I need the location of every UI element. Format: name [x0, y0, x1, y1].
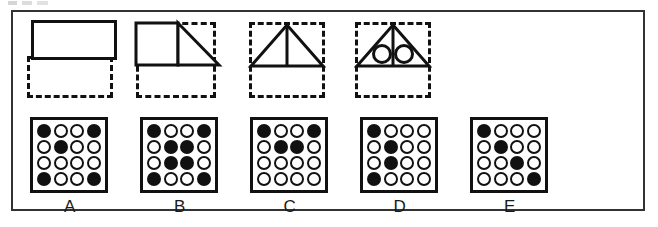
dot-cell — [509, 139, 526, 155]
dot-filled — [37, 172, 51, 186]
dot-cell — [399, 139, 416, 155]
dot-cell — [509, 171, 526, 187]
dot-cell — [289, 171, 306, 187]
dot-filled — [87, 124, 101, 138]
right-triangle-shape — [178, 23, 219, 65]
option-label: E — [470, 197, 550, 217]
dot-open — [164, 124, 178, 138]
dot-open — [494, 156, 508, 170]
dot-filled — [147, 124, 161, 138]
dot-open — [494, 124, 508, 138]
dot-cell — [53, 123, 70, 139]
dot-cell — [86, 171, 103, 187]
dot-filled — [37, 124, 51, 138]
dot-cell — [383, 139, 400, 155]
dot-cell — [196, 139, 213, 155]
dot-open — [197, 156, 211, 170]
dot-cell — [416, 155, 433, 171]
dot-cell — [399, 123, 416, 139]
dot-open — [384, 124, 398, 138]
dot-open — [37, 140, 51, 154]
dot-open — [384, 172, 398, 186]
dot-cell — [256, 139, 273, 155]
dot-open — [307, 156, 321, 170]
dot-cell — [86, 123, 103, 139]
option-label: D — [360, 197, 440, 217]
dot-open — [274, 172, 288, 186]
option-e[interactable]: E — [470, 117, 550, 217]
dot-open — [510, 124, 524, 138]
dot-open — [527, 124, 541, 138]
square-with-right-triangle-svg — [131, 20, 231, 104]
dot-cell — [163, 123, 180, 139]
dot-grid[interactable] — [470, 117, 548, 193]
dot-open — [510, 140, 524, 154]
dot-cell — [476, 155, 493, 171]
dot-cell — [383, 155, 400, 171]
dot-open — [510, 172, 524, 186]
option-c[interactable]: C — [250, 117, 330, 217]
dot-open — [87, 140, 101, 154]
dot-cell — [256, 155, 273, 171]
dot-open — [400, 172, 414, 186]
figure-panel-3 — [247, 20, 339, 104]
dot-filled — [494, 140, 508, 154]
dot-cell — [306, 123, 323, 139]
dot-open — [494, 172, 508, 186]
dot-open — [290, 124, 304, 138]
dot-filled — [274, 140, 288, 154]
dot-filled — [180, 156, 194, 170]
dot-cell — [146, 123, 163, 139]
dot-cell — [306, 139, 323, 155]
dot-filled — [54, 140, 68, 154]
circle-left — [374, 46, 391, 63]
dot-open — [477, 172, 491, 186]
dot-cell — [163, 155, 180, 171]
dot-open — [70, 140, 84, 154]
dot-cell — [146, 155, 163, 171]
dot-cell — [399, 171, 416, 187]
dot-open — [197, 140, 211, 154]
dot-cell — [416, 139, 433, 155]
dot-cell — [366, 155, 383, 171]
dot-cell — [526, 171, 543, 187]
dot-open — [477, 156, 491, 170]
triangle-with-median-svg — [247, 20, 339, 104]
dot-cell — [526, 123, 543, 139]
dot-filled — [527, 172, 541, 186]
dot-cell — [86, 139, 103, 155]
dot-open — [274, 124, 288, 138]
dot-cell — [179, 155, 196, 171]
option-a[interactable]: A — [30, 117, 110, 217]
dot-open — [417, 156, 431, 170]
dot-cell — [196, 155, 213, 171]
option-b[interactable]: B — [140, 117, 220, 217]
figure-panel-2 — [131, 20, 231, 104]
dot-cell — [69, 155, 86, 171]
scan-artifact — [8, 1, 54, 5]
dot-grid[interactable] — [30, 117, 108, 193]
dot-cell — [163, 139, 180, 155]
dot-cell — [196, 171, 213, 187]
dot-open — [180, 172, 194, 186]
dot-cell — [509, 123, 526, 139]
dot-cell — [383, 123, 400, 139]
dot-cell — [69, 171, 86, 187]
dot-cell — [36, 171, 53, 187]
dot-filled — [164, 156, 178, 170]
option-label: B — [140, 197, 220, 217]
dot-cell — [36, 123, 53, 139]
dot-cell — [366, 171, 383, 187]
dot-cell — [476, 139, 493, 155]
dot-cell — [306, 171, 323, 187]
dot-grid[interactable] — [140, 117, 218, 193]
dot-cell — [53, 155, 70, 171]
dot-open — [477, 140, 491, 154]
dot-cell — [289, 139, 306, 155]
option-d[interactable]: D — [360, 117, 440, 217]
dot-grid[interactable] — [360, 117, 438, 193]
dot-open — [527, 140, 541, 154]
dot-open — [400, 156, 414, 170]
dot-cell — [163, 171, 180, 187]
dot-grid[interactable] — [250, 117, 328, 193]
